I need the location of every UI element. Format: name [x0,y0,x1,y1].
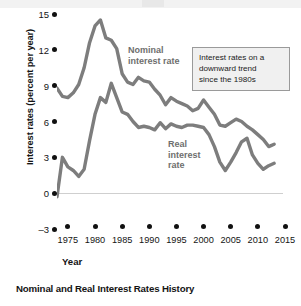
x-tick-label-2010: 2010 [245,235,271,245]
trend-callout-line2: downward trend [199,63,284,74]
x-axis-title: Year [62,256,82,267]
x-tick-label-1990: 1990 [136,235,162,245]
x-tick-mark-2005 [228,224,233,229]
y-tick-label-15: 15 [38,10,49,19]
y-tick-label-3: 3 [44,153,49,162]
x-tick-mark-1985 [120,224,125,229]
y-tick-label-9: 9 [44,82,49,91]
x-tick-mark-1980 [93,224,98,229]
x-tick-mark-2015 [283,224,288,229]
y-tick-label--3: –3 [38,225,49,234]
y-tick-label-12: 12 [38,46,49,55]
x-tick-label-1975: 1975 [55,235,81,245]
scan-artifact-ghost-text [142,0,164,7]
x-tick-label-2005: 2005 [218,235,244,245]
x-tick-label-1980: 1980 [82,235,108,245]
real-interest-rate-line [57,83,274,196]
nominal-series-label-line1: Nominal [128,45,180,56]
x-tick-mark-1995 [174,224,179,229]
real-series-label-line1: Real [168,139,201,150]
real-series-label-line3: rate [168,160,201,171]
x-tick-label-1995: 1995 [163,235,189,245]
x-axis: 197519801985199019952000200520102015 [57,224,285,258]
real-series-label-line2: interest [168,150,201,161]
trend-callout-box: Interest rates on a downward trend since… [192,47,290,91]
x-tick-label-2015: 2015 [272,235,298,245]
nominal-series-label-line2: interest rate [128,56,180,67]
x-tick-label-1985: 1985 [109,235,135,245]
chart-figure: Interest rates (percent per year) 151296… [0,0,301,306]
trend-callout-line3: since the 1980s [199,74,284,85]
trend-callout-line1: Interest rates on a [199,52,284,63]
figure-caption: Nominal and Real Interest Rates History [16,283,194,294]
real-series-label: Real interest rate [168,139,201,171]
nominal-series-label: Nominal interest rate [128,45,180,66]
y-tick-label-6: 6 [44,118,49,127]
x-tick-mark-2010 [255,224,260,229]
x-tick-mark-1990 [147,224,152,229]
y-axis: 15129630–3 [26,14,57,233]
x-tick-mark-1975 [65,224,70,229]
x-tick-mark-2000 [201,224,206,229]
y-tick-label-0: 0 [44,189,49,198]
x-tick-label-2000: 2000 [191,235,217,245]
